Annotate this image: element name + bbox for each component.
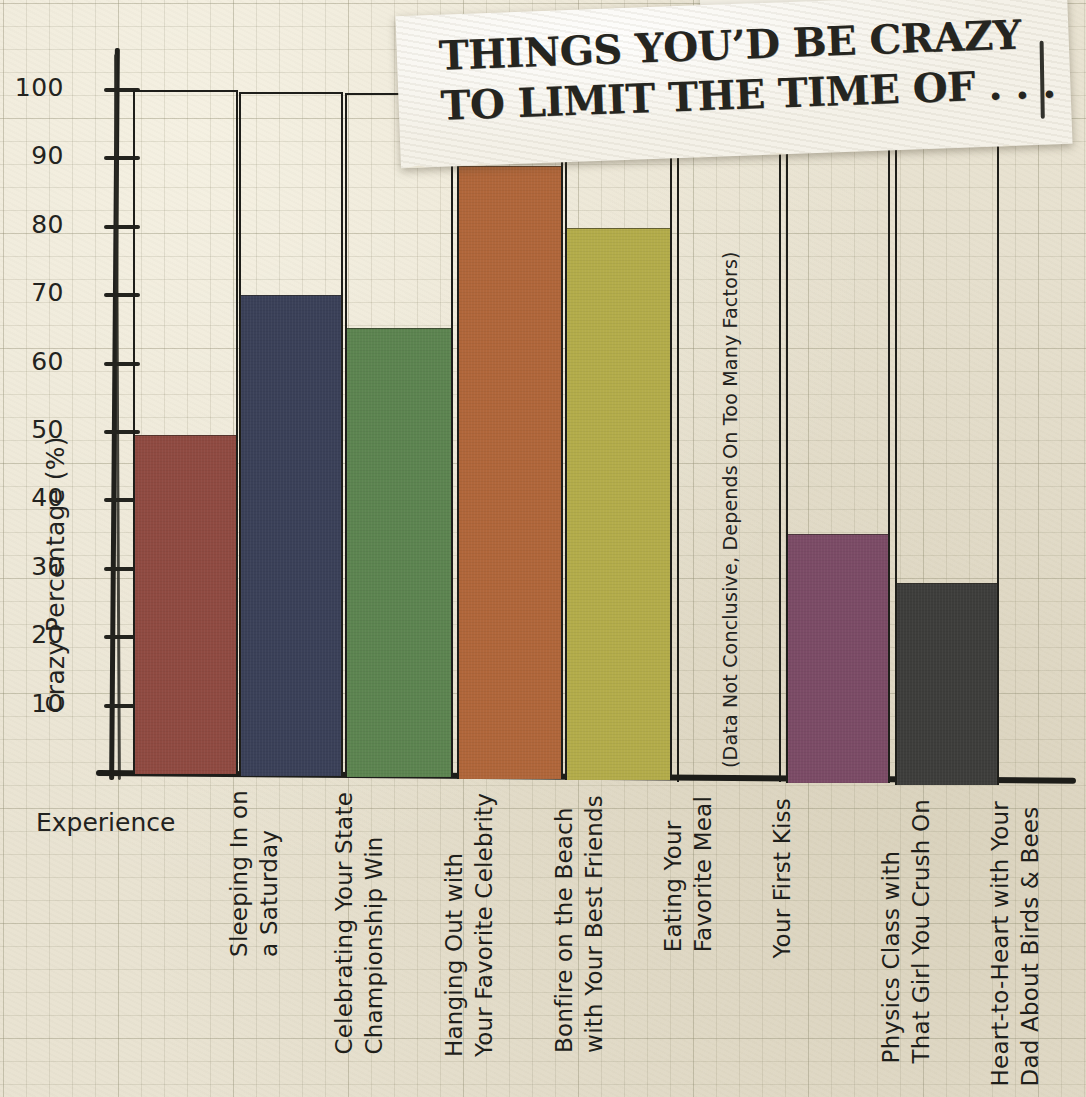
- bar-column[interactable]: (Data Not Conclusive, Depends On Too Man…: [677, 98, 781, 782]
- y-tick-label-100: 100: [0, 73, 64, 102]
- bar-chart-plot: 102030405060708090100 Crazy Percentage (…: [0, 0, 1086, 1097]
- bar-fill[interactable]: [459, 166, 561, 778]
- category-label-line: Eating Your: [658, 796, 688, 952]
- category-label: Eating YourFavorite Meal: [658, 796, 718, 952]
- bar-column[interactable]: [133, 90, 238, 774]
- category-label: Bonfire on the Beachwith Your Best Frien…: [549, 795, 609, 1053]
- category-label-line: Championship Win: [359, 792, 389, 1055]
- category-label-line: Physics Class with: [876, 799, 906, 1063]
- no-data-annotation: (Data Not Conclusive, Depends On Too Man…: [719, 251, 741, 768]
- y-tick-label-60: 60: [0, 347, 64, 376]
- bar-column[interactable]: [786, 99, 890, 783]
- category-label-line: Hanging Out with: [439, 793, 469, 1057]
- category-label: Sleeping In ona Saturday: [224, 790, 284, 957]
- bar-fill[interactable]: [241, 295, 341, 776]
- category-label-line: Celebrating Your State: [329, 792, 359, 1055]
- category-label: Heart-to-Heart with YourDad About Birds …: [985, 801, 1045, 1086]
- category-label: Your First Kiss: [767, 798, 797, 959]
- y-tick-label-90: 90: [0, 141, 64, 170]
- y-tick-label-80: 80: [0, 210, 64, 239]
- category-label: Celebrating Your StateChampionship Win: [329, 792, 389, 1055]
- title-banner: THINGS YOU’D BE CRAZY TO LIMIT THE TIME …: [395, 0, 1072, 168]
- category-label-line: Favorite Meal: [688, 796, 718, 952]
- bar-fill[interactable]: [135, 435, 236, 774]
- bar-column[interactable]: [345, 93, 453, 777]
- category-label-line: a Saturday: [254, 790, 284, 957]
- bar-column[interactable]: [239, 92, 343, 776]
- bar-fill[interactable]: [567, 228, 670, 780]
- category-label-line: Your Favorite Celebrity: [469, 793, 499, 1057]
- category-label: Hanging Out withYour Favorite Celebrity: [439, 793, 499, 1057]
- category-label-line: with Your Best Friends: [579, 795, 609, 1053]
- bar-column[interactable]: [565, 96, 672, 780]
- y-axis-line-shadow: [114, 54, 121, 780]
- bar-fill[interactable]: [347, 328, 451, 777]
- category-label-line: Dad About Birds & Bees: [1015, 801, 1045, 1086]
- bar-column[interactable]: [457, 95, 563, 779]
- category-label: Physics Class withThat Girl You Crush On: [876, 799, 936, 1063]
- category-label-line: Your First Kiss: [767, 798, 797, 959]
- x-axis-title: Experience: [36, 808, 175, 837]
- category-label-line: Bonfire on the Beach: [549, 795, 579, 1053]
- category-label-line: Sleeping In on: [224, 790, 254, 957]
- y-tick-label-70: 70: [0, 278, 64, 307]
- chart-page: 102030405060708090100 Crazy Percentage (…: [0, 0, 1086, 1097]
- bar-column[interactable]: [895, 101, 999, 785]
- category-label-line: Heart-to-Heart with Your: [985, 801, 1015, 1086]
- bar-fill[interactable]: [788, 534, 888, 784]
- bar-fill[interactable]: [897, 583, 997, 785]
- y-axis-title: Crazy Percentage (%): [41, 395, 70, 755]
- category-label-line: That Girl You Crush On: [906, 799, 936, 1063]
